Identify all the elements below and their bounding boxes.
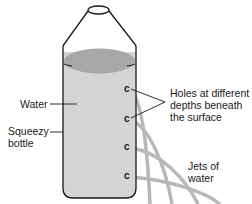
label-jets: Jets of water bbox=[188, 160, 219, 184]
hole-2: c bbox=[124, 113, 130, 124]
label-holes-line2: depths beneath bbox=[170, 99, 249, 111]
label-jets-line1: Jets of bbox=[188, 160, 219, 172]
bottle-cone bbox=[63, 11, 136, 52]
hole-3: c bbox=[124, 141, 130, 152]
hole-4: c bbox=[124, 170, 130, 181]
label-jets-line2: water bbox=[188, 172, 219, 184]
label-squeezy-bottle-line1: Squeezy bbox=[8, 125, 49, 137]
label-holes-line1: Holes at different bbox=[170, 87, 249, 99]
label-water: Water bbox=[20, 98, 48, 110]
hole-1: c bbox=[124, 83, 130, 94]
label-holes-line3: the surface bbox=[170, 111, 249, 123]
water-surface bbox=[64, 49, 135, 74]
bottle-opening bbox=[88, 6, 109, 14]
bottle-diagram: c c c c Water Squeezy bottle Holes at di… bbox=[0, 0, 252, 204]
label-holes: Holes at different depths beneath the su… bbox=[170, 87, 249, 123]
label-squeezy-bottle: Squeezy bottle bbox=[8, 125, 49, 149]
label-squeezy-bottle-line2: bottle bbox=[8, 137, 49, 149]
